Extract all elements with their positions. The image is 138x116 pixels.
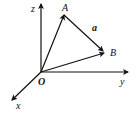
vector-AB <box>64 15 103 51</box>
y-axis-label: y <box>119 76 125 87</box>
vector-OA <box>41 15 64 72</box>
x-axis <box>12 72 41 100</box>
vector-diagram: z y x O A B a <box>0 0 138 116</box>
x-axis-label: x <box>15 100 21 111</box>
vector-a-label: a <box>92 22 97 33</box>
z-axis-label: z <box>30 3 35 14</box>
point-A-label: A <box>61 2 69 13</box>
origin-label: O <box>38 76 45 87</box>
point-B-label: B <box>110 47 116 58</box>
vector-OB <box>41 53 104 72</box>
